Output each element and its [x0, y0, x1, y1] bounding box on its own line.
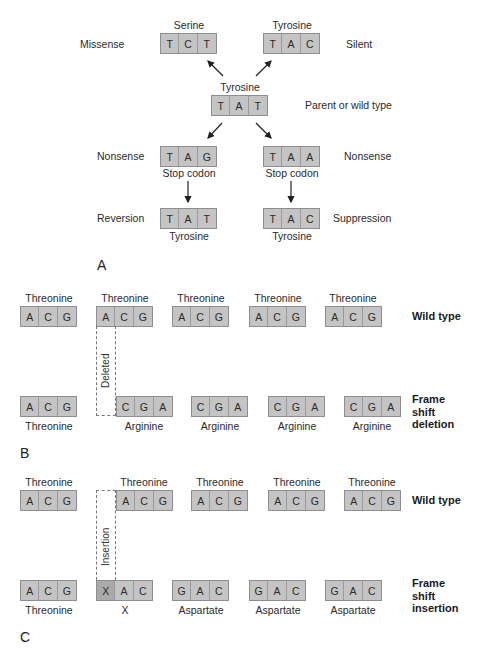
- inserted-base: X: [97, 581, 115, 600]
- base: C: [301, 209, 319, 228]
- base: G: [135, 397, 153, 416]
- base: G: [134, 307, 152, 326]
- base: C: [39, 397, 57, 416]
- base: G: [210, 307, 228, 326]
- wild-codon: T A T: [211, 95, 268, 116]
- codon: A C G: [325, 306, 382, 327]
- amino-label: Arginine: [125, 420, 164, 432]
- base: A: [179, 209, 197, 228]
- base: A: [345, 491, 363, 510]
- base: A: [326, 307, 344, 326]
- codon: A C G: [20, 490, 77, 511]
- serine-label: Serine: [174, 19, 204, 31]
- stop-codon-right-label: Stop codon: [265, 167, 318, 179]
- amino-label: Threonine: [196, 476, 243, 488]
- amino-label: Aspartate: [256, 604, 301, 616]
- amino-label: Threonine: [273, 476, 320, 488]
- amino-label: Threonine: [329, 292, 376, 304]
- base: C: [39, 307, 57, 326]
- label-line: shift: [412, 406, 454, 419]
- base: T: [264, 34, 282, 53]
- amino-label: Threonine: [120, 476, 167, 488]
- base: C: [363, 491, 381, 510]
- base: G: [58, 491, 76, 510]
- base: C: [287, 581, 305, 600]
- label-line: insertion: [412, 602, 458, 615]
- base: G: [287, 307, 305, 326]
- base: A: [282, 34, 300, 53]
- base: A: [173, 307, 191, 326]
- panel-c-label: C: [20, 629, 30, 645]
- base: A: [97, 307, 115, 326]
- base: C: [363, 581, 381, 600]
- base: T: [249, 96, 267, 115]
- base: C: [179, 34, 197, 53]
- codon: A C G: [20, 306, 77, 327]
- base: C: [269, 397, 287, 416]
- base: C: [191, 307, 209, 326]
- base: A: [282, 209, 300, 228]
- base: A: [282, 147, 300, 166]
- base: C: [115, 307, 133, 326]
- base: T: [264, 147, 282, 166]
- base: C: [39, 581, 57, 600]
- base: A: [269, 491, 287, 510]
- base: C: [192, 397, 210, 416]
- base: T: [198, 209, 216, 228]
- codon: G A C: [325, 580, 382, 601]
- wild-amino-label: Tyrosine: [220, 81, 260, 93]
- base: C: [301, 34, 319, 53]
- base: G: [363, 397, 381, 416]
- base: C: [134, 581, 152, 600]
- amino-label: Threonine: [25, 292, 72, 304]
- wild-type-label: Wild type: [412, 494, 461, 507]
- codon: G A C: [249, 580, 306, 601]
- base: C: [135, 491, 153, 510]
- insertion-label: Insertion: [100, 528, 111, 566]
- base: T: [264, 209, 282, 228]
- codon: A C G: [344, 490, 401, 511]
- amino-label: Arginine: [353, 420, 392, 432]
- codon: C G A: [268, 396, 325, 417]
- base: A: [344, 581, 362, 600]
- nonsense-right-label: Nonsense: [344, 150, 391, 162]
- suppression-amino-label: Tyrosine: [272, 230, 312, 242]
- base: T: [161, 147, 179, 166]
- base: G: [198, 147, 216, 166]
- codon: C G A: [191, 396, 248, 417]
- base: G: [229, 491, 247, 510]
- codon: C G A: [116, 396, 173, 417]
- base: G: [287, 397, 305, 416]
- amino-label: Threonine: [254, 292, 301, 304]
- amino-label: Threonine: [25, 476, 72, 488]
- base: G: [58, 307, 76, 326]
- amino-label: Threonine: [101, 292, 148, 304]
- base: A: [268, 581, 286, 600]
- frame-shift-insertion-label: Frame shift insertion: [412, 577, 458, 615]
- mutation-arrows-icon: [0, 0, 488, 240]
- base: C: [39, 491, 57, 510]
- base: A: [230, 96, 248, 115]
- label-line: Frame: [412, 577, 458, 590]
- base: G: [58, 397, 76, 416]
- amino-label: Arginine: [201, 420, 240, 432]
- codon: A C G: [268, 490, 325, 511]
- codon: A C G: [249, 306, 306, 327]
- codon: C G A: [344, 396, 401, 417]
- base: T: [212, 96, 230, 115]
- silent-codon: T A C: [263, 33, 320, 54]
- suppression-label: Suppression: [333, 212, 391, 224]
- base: G: [58, 581, 76, 600]
- reversion-codon: T A T: [160, 208, 217, 229]
- base: G: [382, 491, 400, 510]
- base: G: [154, 491, 172, 510]
- stop-codon-left-label: Stop codon: [162, 167, 215, 179]
- base: G: [210, 397, 228, 416]
- silent-label: Silent: [346, 38, 372, 50]
- base: C: [268, 307, 286, 326]
- amino-label: Threonine: [25, 420, 72, 432]
- base: A: [154, 397, 172, 416]
- base: T: [161, 34, 179, 53]
- reversion-amino-label: Tyrosine: [169, 230, 209, 242]
- codon: G A C: [172, 580, 229, 601]
